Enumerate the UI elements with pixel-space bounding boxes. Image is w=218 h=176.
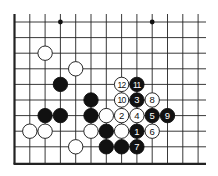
move-number-label: 12 xyxy=(117,80,126,90)
white-stone xyxy=(84,124,98,138)
move-number-label: 9 xyxy=(165,110,170,121)
move-number-label: 11 xyxy=(133,80,141,90)
white-stone xyxy=(114,124,128,138)
move-3-black-stone: 3 xyxy=(130,93,144,107)
white-stone xyxy=(99,108,113,122)
go-board-diagram: 123456789101112 xyxy=(0,0,218,176)
move-9-black-stone: 9 xyxy=(160,108,174,122)
black-stone xyxy=(99,140,113,154)
star-point-icon xyxy=(58,20,63,25)
move-number-label: 3 xyxy=(134,94,139,105)
move-11-black-stone: 11 xyxy=(130,77,144,91)
white-stone xyxy=(69,62,83,76)
black-stone xyxy=(84,108,98,122)
move-number-label: 2 xyxy=(119,110,124,121)
move-12-white-stone: 12 xyxy=(114,77,128,91)
white-stone xyxy=(23,124,37,138)
black-stone xyxy=(114,140,128,154)
move-number-label: 5 xyxy=(150,110,155,121)
black-stone xyxy=(53,108,67,122)
move-8-white-stone: 8 xyxy=(145,93,159,107)
move-number-label: 6 xyxy=(150,126,155,137)
black-stone xyxy=(84,93,98,107)
black-stone xyxy=(99,124,113,138)
move-4-white-stone: 4 xyxy=(130,108,144,122)
move-10-white-stone: 10 xyxy=(114,93,128,107)
move-number-label: 10 xyxy=(117,95,126,105)
move-7-black-stone: 7 xyxy=(130,140,144,154)
move-number-label: 4 xyxy=(134,110,139,121)
star-point-icon xyxy=(150,20,155,25)
white-stone xyxy=(69,140,83,154)
move-2-white-stone: 2 xyxy=(114,108,128,122)
move-1-black-stone: 1 xyxy=(130,124,144,138)
move-number-label: 1 xyxy=(134,126,139,137)
move-6-white-stone: 6 xyxy=(145,124,159,138)
white-stone xyxy=(38,46,52,60)
white-stone xyxy=(38,124,52,138)
move-number-label: 8 xyxy=(150,94,155,105)
black-stone xyxy=(38,108,52,122)
move-5-black-stone: 5 xyxy=(145,108,159,122)
black-stone xyxy=(53,77,67,91)
move-number-label: 7 xyxy=(134,141,139,152)
